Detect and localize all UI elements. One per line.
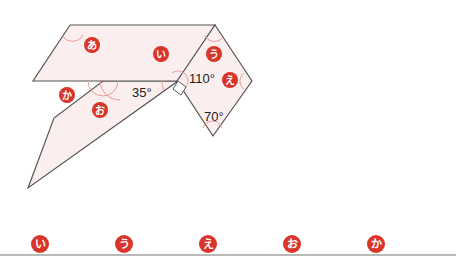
svg-text:お: お xyxy=(95,105,105,116)
svg-text:う: う xyxy=(119,238,130,251)
svg-text:う: う xyxy=(209,49,219,60)
lower-quadrilateral xyxy=(28,81,178,188)
angle-110: 110° xyxy=(189,71,215,86)
badge-ka: か xyxy=(59,87,75,103)
svg-text:あ: あ xyxy=(87,39,97,51)
answer-badge-e: え xyxy=(199,235,217,253)
angle-35: 35° xyxy=(132,85,152,100)
svg-text:え: え xyxy=(203,238,214,251)
svg-text:か: か xyxy=(371,238,382,251)
svg-text:え: え xyxy=(225,75,235,86)
badge-o: お xyxy=(92,102,108,118)
svg-text:い: い xyxy=(35,238,46,251)
badge-i: い xyxy=(153,46,169,62)
geometry-diagram: 35° 110° 70° あ い う え お か い う え お xyxy=(0,0,456,273)
svg-text:か: か xyxy=(62,90,72,101)
answer-badge-ka: か xyxy=(367,235,385,253)
badge-u: う xyxy=(206,46,222,62)
answer-badge-o: お xyxy=(283,235,301,253)
badge-e: え xyxy=(222,72,238,88)
angle-70: 70° xyxy=(204,109,224,124)
answer-badge-u: う xyxy=(115,235,133,253)
answer-badge-i: い xyxy=(31,235,49,253)
badge-a: あ xyxy=(84,37,100,53)
svg-text:い: い xyxy=(156,49,166,60)
svg-text:お: お xyxy=(287,238,298,251)
